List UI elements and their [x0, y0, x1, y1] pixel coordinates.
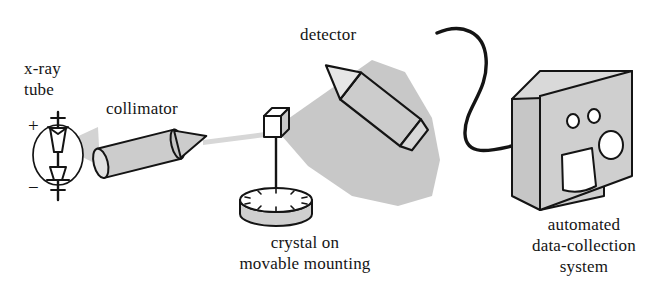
anode-target: [50, 128, 66, 152]
label-xray-tube-line2: tube: [24, 79, 61, 100]
label-crystal-mounting: crystal on movable mounting: [215, 232, 395, 274]
label-collimator: collimator: [106, 98, 178, 119]
collimator: [90, 122, 210, 179]
crystal-cube-front: [264, 116, 281, 137]
label-data-collection-system: automated data-collection system: [500, 214, 668, 277]
collimated-beam-ray: [203, 132, 265, 145]
signal-cable: [437, 29, 512, 151]
label-system-line2: data-collection: [500, 235, 668, 256]
xray-tube: [33, 112, 83, 200]
cathode-cup: [50, 167, 66, 180]
collimator-barrel: [97, 130, 181, 178]
automated-data-collection-system: [512, 71, 632, 210]
reel-dial: [599, 131, 623, 159]
label-crystal-line1: crystal on: [215, 232, 395, 253]
system-box-left-face: [512, 96, 540, 210]
label-detector: detector: [300, 24, 356, 45]
label-system-line3: system: [500, 256, 668, 277]
label-xray-tube: x-ray tube: [24, 58, 61, 100]
figure-canvas: x-ray tube + − collimator detector cryst…: [0, 0, 670, 296]
label-system-line1: automated: [500, 214, 668, 235]
label-anode-sign: +: [28, 116, 39, 135]
label-cathode-sign: −: [28, 178, 39, 197]
label-crystal-line2: movable mounting: [215, 253, 395, 274]
paper-printout: [562, 148, 596, 192]
label-xray-tube-line1: x-ray: [24, 58, 61, 79]
indicator-light-right: [588, 109, 600, 123]
indicator-light-left: [567, 114, 579, 128]
